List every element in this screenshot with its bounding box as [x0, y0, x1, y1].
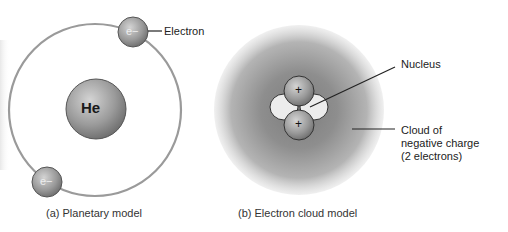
nucleus-label: Nucleus [401, 58, 441, 71]
cloud-label-line-3: (2 electrons) [401, 150, 462, 163]
atom-models-diagram [0, 0, 508, 232]
proton-plus-top: + [295, 84, 302, 97]
caption-electron-cloud: (b) Electron cloud model [238, 207, 357, 219]
electron-symbol-bottom: e− [40, 175, 53, 188]
electron-cloud-model [214, 25, 395, 195]
proton-plus-bottom: + [295, 118, 302, 131]
electron-label: Electron [164, 25, 204, 38]
cloud-label-line-2: negative charge [401, 137, 479, 150]
helium-symbol: He [81, 101, 100, 114]
cloud-label-line-1: Cloud of [401, 124, 442, 137]
caption-planetary: (a) Planetary model [46, 207, 142, 219]
electron-symbol-top: e− [126, 25, 139, 38]
